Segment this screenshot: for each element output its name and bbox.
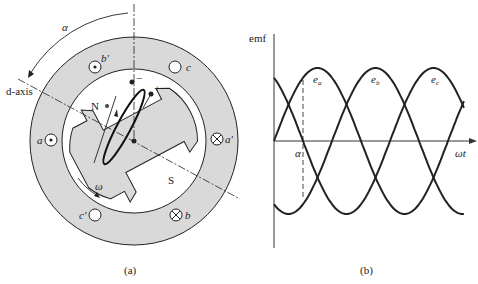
alpha-arrowhead [28,70,34,78]
svg-text:a: a [37,134,43,146]
north-pole-label: N [91,100,99,112]
svg-text:a': a' [225,133,234,145]
terminal-plus-label: + [154,82,160,94]
svg-text:b: b [185,209,191,221]
dot-icon [49,138,52,141]
label-e-a: ea [313,73,322,87]
south-pole-label: S [168,174,174,186]
alpha-label: α [62,21,68,33]
figure: − + N S ω a a' b b' c [0,0,478,284]
slot-a: a [37,134,57,146]
alpha-marker-label: α [295,147,301,159]
machine-diagram: − + N S ω a a' b b' c [6,4,240,277]
slot-b: b [170,209,191,221]
svg-text:c: c [186,61,191,73]
caption-b: (b) [360,264,373,277]
label-e-c: ec [431,73,440,87]
svg-text:b': b' [101,52,110,64]
svg-text:c': c' [79,209,87,221]
north-dot [105,104,109,108]
dot-icon [93,65,96,68]
y-axis-label: emf [249,32,266,44]
terminal-minus-label: − [136,72,142,84]
shaft-center [132,139,137,144]
d-axis-label: d-axis [6,85,33,97]
emf-chart: emf ωt α ea eb ec (b) [249,32,477,277]
x-axis-arrowhead [469,138,477,144]
x-axis-label: ωt [455,147,467,159]
label-e-b: eb [371,73,380,87]
omega-label: ω [95,180,103,192]
caption-a: (a) [124,264,137,277]
terminal-minus [130,80,135,85]
